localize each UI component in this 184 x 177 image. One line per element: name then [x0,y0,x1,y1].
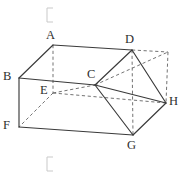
edge-e-h [53,93,166,103]
edge-c-p [95,52,168,85]
vertex-label-f: F [3,119,10,132]
vertex-label-g: G [127,139,136,152]
edge-a-b [19,45,53,78]
edge-c-d [95,50,132,85]
edge-g-h [133,103,166,135]
vertex-label-e: E [40,84,48,97]
edge-d-h [132,50,166,103]
edge-f-g [19,127,133,135]
top-bracket-mark [47,8,53,22]
bottom-bracket-mark [47,157,53,171]
vertex-label-b: B [3,70,11,83]
edge-e-f [19,93,53,127]
edge-p-h [166,52,168,103]
vertex-label-c: C [87,68,95,81]
edge-c-g [95,85,133,135]
vertex-label-d: D [125,33,134,46]
edge-e-c [53,85,95,93]
edge-b-c [19,78,95,85]
geometry-figure: ABCDEFGH [0,0,184,177]
edge-d-g [132,50,133,135]
vertex-label-a: A [46,29,55,42]
vertex-label-h: H [169,95,178,108]
edge-d-p [132,50,168,52]
geometry-canvas [0,0,184,177]
edge-a-d [53,45,132,50]
